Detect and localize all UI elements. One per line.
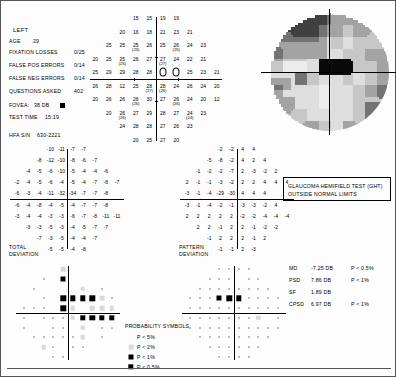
grayscale-cell — [346, 128, 348, 130]
prob-symbol-p5-td — [51, 306, 55, 310]
prob-symbol-none-td — [33, 337, 34, 338]
prob-symbol-none-pd — [229, 356, 230, 357]
pattern-deviation-value: -4 — [207, 202, 211, 207]
prob-symbol-p2-td — [109, 306, 114, 311]
prob-symbol-none-td — [63, 317, 64, 318]
total-deviation-value: -4 — [70, 224, 74, 229]
retest-value: (25) — [119, 60, 126, 65]
pattern-deviation-value: 4 — [263, 180, 266, 185]
total-deviation-value: -5 — [59, 202, 63, 207]
prob-symbol-none-td — [63, 327, 64, 328]
prob-symbol-none-pd — [258, 278, 259, 279]
grayscale-map — [269, 13, 389, 131]
total-deviation-value: -8 — [81, 246, 85, 251]
threshold-value: 25 — [146, 137, 152, 142]
total-deviation-value: -7 — [81, 147, 85, 152]
axis-tick — [155, 101, 158, 102]
total-deviation-value: -7 — [104, 224, 108, 229]
pattern-deviation-value: -1 — [251, 224, 255, 229]
grayscale-cell — [379, 102, 381, 104]
total-deviation-value: -5 — [59, 246, 63, 251]
axis-tick — [178, 78, 179, 81]
total-deviation-value: -6 — [15, 202, 19, 207]
prob-symbol-p5-td — [51, 267, 55, 271]
threshold-value: 20 — [214, 83, 220, 88]
total-deviation-value: -8 — [104, 191, 108, 196]
reliability-value: 0/14 — [74, 62, 85, 68]
prob-symbol-p2-td — [80, 286, 85, 291]
threshold-value: 27 — [160, 137, 166, 142]
pattern-deviation-value: 2 — [230, 213, 233, 218]
threshold-value: 19 — [173, 16, 179, 21]
vertical-axis — [67, 149, 68, 249]
threshold-value: 27 — [133, 110, 139, 115]
prob-symbol-p5-td — [90, 335, 94, 339]
threshold-value: 25 — [106, 43, 112, 48]
pattern-deviation-value: 4 — [274, 180, 277, 185]
total-deviation-value: -5 — [81, 224, 85, 229]
retest-value: (26) — [119, 114, 126, 119]
grayscale-cell — [367, 116, 369, 118]
prob-symbol-none-pd — [248, 298, 249, 299]
prob-symbol-p2-pd — [256, 316, 261, 321]
pattern-deviation-value: -1 — [218, 246, 222, 251]
threshold-value: 29 — [106, 70, 112, 75]
reliability-value: 0/14 — [74, 75, 85, 81]
pattern-deviation-value: -2 — [229, 180, 233, 185]
prob-symbol-none-pd — [219, 288, 220, 289]
index-name: SF — [289, 289, 296, 295]
prob-symbol-none-pd — [248, 337, 249, 338]
grayscale-cell — [365, 119, 367, 121]
fovea-value: 38 DB — [34, 102, 49, 108]
prob-symbol-p5-td — [71, 267, 75, 271]
grayscale-cell — [382, 97, 384, 99]
total-deviation-value: -3 — [26, 224, 30, 229]
total-deviation-value: -6 — [48, 169, 52, 174]
threshold-value: 23 — [187, 124, 193, 129]
retest-value: (26) — [132, 101, 139, 106]
prob-symbol-none-pd — [258, 327, 259, 328]
pattern-deviation-value: -1 — [229, 202, 233, 207]
ght-box: GLAUCOMA HEMIFIELD TEST (GHT) OUTSIDE NO… — [283, 177, 391, 201]
total-deviation-value: -6 — [15, 191, 19, 196]
total-deviation-value: -7 — [70, 147, 74, 152]
total-deviation-value: -5 — [37, 169, 41, 174]
prob-symbol-none-pd — [258, 337, 259, 338]
threshold-value: 20 — [119, 29, 125, 34]
prob-symbol-none-pd — [209, 317, 210, 318]
legend-label: P < 1% — [137, 354, 155, 360]
pattern-deviation-value: -1 — [218, 224, 222, 229]
total-deviation-value: -32 — [58, 191, 65, 196]
pattern-deviation-value: 2 — [186, 213, 189, 218]
pattern-deviation-value: 4 — [252, 191, 255, 196]
prob-symbol-none-td — [33, 288, 34, 289]
pattern-deviation-value: -7 — [229, 169, 233, 174]
prob-symbol-none-pd — [219, 278, 220, 279]
threshold-value: 27 — [160, 97, 166, 102]
grayscale-cell — [353, 126, 355, 128]
threshold-value: 23 — [200, 70, 206, 75]
pattern-deviation-value: -5 — [207, 158, 211, 163]
threshold-value: 26 — [106, 97, 112, 102]
total-deviation-value: -10 — [47, 147, 54, 152]
pattern-deviation-value: 2 — [263, 235, 266, 240]
total-deviation-value: -7 — [93, 158, 97, 163]
total-deviation-value: -6 — [104, 169, 108, 174]
total-deviation-value: -7 — [93, 180, 97, 185]
prob-symbol-p1-td — [61, 276, 66, 281]
prob-symbol-none-pd — [199, 298, 200, 299]
prob-symbol-none-pd — [209, 327, 210, 328]
legend-label: P < 5% — [137, 334, 155, 340]
prob-symbol-none-pd — [209, 278, 210, 279]
grayscale-cell — [360, 121, 362, 123]
total-deviation-value: -5 — [37, 180, 41, 185]
prob-symbol-none-pd — [190, 308, 191, 309]
pattern-deviation-value: -3 — [185, 191, 189, 196]
prob-symbol-p5-td — [90, 345, 94, 349]
prob-symbol-p5-td — [51, 296, 55, 300]
pattern-deviation-value: -2 — [229, 158, 233, 163]
retest-value: (27) — [159, 60, 166, 65]
threshold-value: 21 — [160, 29, 166, 34]
total-deviation-value: -8 — [104, 202, 108, 207]
total-deviation-value: -3 — [59, 213, 63, 218]
